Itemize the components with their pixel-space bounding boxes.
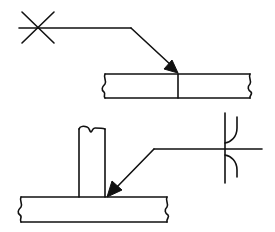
double-j-weld-symbol-icon [225,113,237,183]
vertical-plate [79,126,105,197]
base-plate [18,197,168,222]
top-leader-line [131,28,172,66]
weld-diagram [0,0,275,232]
diagram-canvas: welding-symbols [0,0,275,232]
top-arrowhead-icon [164,60,178,73]
top-figure [19,12,252,98]
bottom-figure [18,113,262,222]
bottom-leader-line [116,149,154,188]
top-plate [102,74,251,98]
